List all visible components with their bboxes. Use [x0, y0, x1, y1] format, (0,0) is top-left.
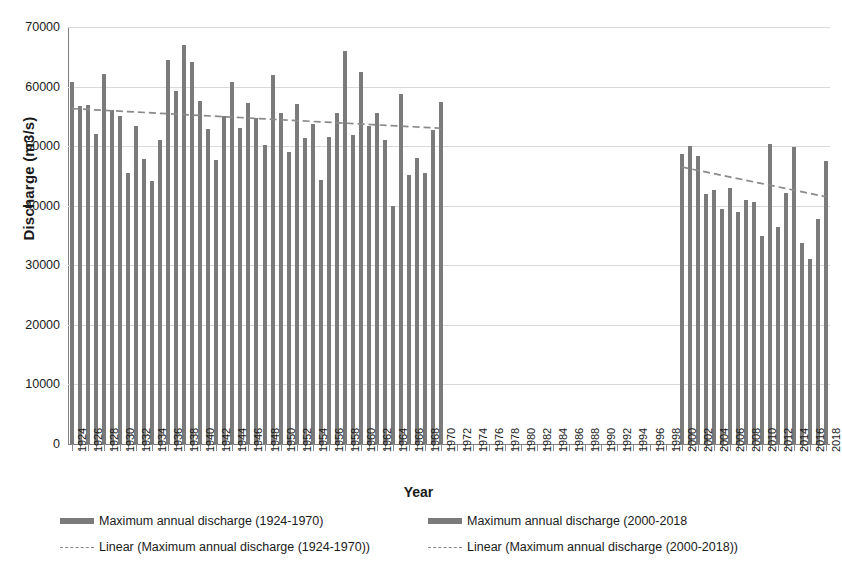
- chart-legend: Maximum annual discharge (1924-1970)Maxi…: [60, 514, 830, 566]
- y-axis-tick-label: 20000: [25, 318, 60, 332]
- x-axis-tick-label: 1974: [477, 428, 489, 452]
- x-axis-tick: [569, 444, 570, 451]
- x-axis-tick-label: 1980: [525, 428, 537, 452]
- trendline: [72, 109, 441, 129]
- legend-item[interactable]: Maximum annual discharge (1924-1970): [60, 514, 323, 528]
- x-axis-tick: [650, 444, 651, 451]
- legend-label: Maximum annual discharge (1924-1970): [99, 514, 323, 528]
- x-axis-tick: [152, 444, 153, 451]
- x-axis-tick-label: 1972: [461, 428, 473, 452]
- x-axis-tick-label: 1990: [605, 428, 617, 452]
- y-axis-tick-label: 40000: [25, 199, 60, 213]
- x-axis-tick-label: 1952: [301, 428, 313, 452]
- x-axis-tick-label: 1938: [188, 428, 200, 452]
- y-axis-tick-label: 70000: [25, 20, 60, 34]
- trendline: [682, 167, 826, 197]
- x-axis-tick-label: 2014: [798, 428, 810, 452]
- x-axis-tick-label: 2010: [766, 428, 778, 452]
- x-axis-tick: [441, 444, 442, 451]
- legend-item[interactable]: Linear (Maximum annual discharge (2000-2…: [428, 540, 738, 554]
- x-axis-tick-label: 2000: [686, 428, 698, 452]
- x-axis-tick-label: 1948: [269, 428, 281, 452]
- x-axis-tick: [72, 444, 73, 451]
- x-axis-tick-label: 2018: [830, 428, 842, 452]
- y-axis-tick-label: 60000: [25, 80, 60, 94]
- x-axis-tick: [826, 444, 827, 451]
- y-axis-tick-label: 0: [53, 437, 60, 451]
- x-axis-tick: [425, 444, 426, 451]
- x-axis-tick-label: 1962: [381, 428, 393, 452]
- x-axis-tick: [88, 444, 89, 451]
- y-axis-tick-label: 50000: [25, 139, 60, 153]
- x-axis-tick: [617, 444, 618, 451]
- x-axis-tick: [216, 444, 217, 451]
- legend-dashed-line-icon: [428, 547, 462, 548]
- x-axis-tick: [585, 444, 586, 451]
- x-axis-tick-label: 1942: [220, 428, 232, 452]
- x-axis-tick-label: 1996: [654, 428, 666, 452]
- x-axis-tick: [120, 444, 121, 451]
- x-axis-tick-label: 2004: [718, 428, 730, 452]
- legend-dashed-line-icon: [60, 547, 94, 548]
- x-axis-tick-label: 1946: [252, 428, 264, 452]
- x-axis-tick-label: 1998: [670, 428, 682, 452]
- x-axis-tick-label: 1956: [333, 428, 345, 452]
- x-axis-tick-label: 1940: [204, 428, 216, 452]
- x-axis-tick: [104, 444, 105, 451]
- x-axis-tick: [521, 444, 522, 451]
- x-axis-tick-label: 1968: [429, 428, 441, 452]
- x-axis-tick-label: 1924: [76, 428, 88, 452]
- x-axis-tick-label: 1984: [557, 428, 569, 452]
- x-axis-tick: [232, 444, 233, 451]
- x-axis-tick: [810, 444, 811, 451]
- x-axis-tick: [265, 444, 266, 451]
- x-axis-tick-label: 1932: [140, 428, 152, 452]
- x-axis-tick-label: 1936: [172, 428, 184, 452]
- x-axis-tick-label: 1958: [349, 428, 361, 452]
- x-axis-tick-label: 1976: [493, 428, 505, 452]
- trendlines-layer: [68, 27, 830, 444]
- x-axis-tick: [537, 444, 538, 451]
- legend-bar-swatch-icon: [60, 518, 94, 524]
- x-axis-tick-label: 2002: [702, 428, 714, 452]
- x-axis-tick-label: 2012: [782, 428, 794, 452]
- x-axis-tick-label: 1986: [573, 428, 585, 452]
- x-axis-tick-label: 1960: [365, 428, 377, 452]
- x-axis-tick: [553, 444, 554, 451]
- legend-label: Maximum annual discharge (2000-2018: [467, 514, 687, 528]
- x-axis-tick: [409, 444, 410, 451]
- x-axis-title: Year: [0, 484, 837, 500]
- x-axis-tick: [778, 444, 779, 451]
- x-axis-tick-label: 1930: [124, 428, 136, 452]
- x-axis-tick: [489, 444, 490, 451]
- x-axis-tick-label: 1992: [621, 428, 633, 452]
- legend-item[interactable]: Linear (Maximum annual discharge (1924-1…: [60, 540, 370, 554]
- x-axis-tick-label: 1988: [589, 428, 601, 452]
- x-axis-tick: [200, 444, 201, 451]
- x-axis-tick-label: 1982: [541, 428, 553, 452]
- x-axis-tick-label: 1964: [397, 428, 409, 452]
- x-axis-tick-label: 1934: [156, 428, 168, 452]
- x-axis-tick-label: 2006: [734, 428, 746, 452]
- legend-bar-swatch-icon: [428, 518, 462, 524]
- x-axis-tick-label: 1944: [236, 428, 248, 452]
- x-axis-tick: [248, 444, 249, 451]
- y-axis-tick-label: 10000: [25, 377, 60, 391]
- x-axis-tick: [136, 444, 137, 451]
- legend-label: Linear (Maximum annual discharge (1924-1…: [99, 540, 370, 554]
- x-axis-tick-label: 2016: [814, 428, 826, 452]
- x-axis-tick-label: 1994: [637, 428, 649, 452]
- x-axis-tick-label: 1970: [445, 428, 457, 452]
- x-axis-tick-label: 2008: [750, 428, 762, 452]
- y-axis-tick-labels: 010000200003000040000500006000070000: [0, 0, 68, 417]
- x-axis-tick-label: 1926: [92, 428, 104, 452]
- x-axis-tick: [168, 444, 169, 451]
- legend-item[interactable]: Maximum annual discharge (2000-2018: [428, 514, 687, 528]
- x-axis-tick-label: 1966: [413, 428, 425, 452]
- x-axis-tick-label: 1954: [317, 428, 329, 452]
- x-axis-tick: [505, 444, 506, 451]
- x-axis-tick: [473, 444, 474, 451]
- plot-area: [68, 27, 830, 444]
- x-axis-tick: [457, 444, 458, 451]
